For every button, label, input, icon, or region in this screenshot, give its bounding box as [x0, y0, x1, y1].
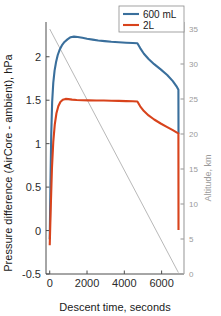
y-axis-title: Pressure difference (AirCore - ambient),…	[2, 53, 14, 271]
legend-box[interactable]: 600 mL2L	[119, 6, 184, 32]
x-tick-label: 4000	[112, 277, 136, 289]
y-tick-label: 0.5	[26, 181, 41, 193]
y2-tick-label: 35	[189, 25, 198, 34]
y2-tick-label: 5	[189, 235, 194, 244]
legend-label[interactable]: 600 mL	[143, 9, 177, 20]
legend-label[interactable]: 2L	[143, 20, 155, 31]
y2-tick-label: 30	[189, 60, 198, 69]
y2-axis-title: Altitude, km	[203, 154, 213, 201]
y2-tick-label: 20	[189, 130, 198, 139]
y2-tick-label: 10	[189, 200, 198, 209]
y2-tick-label: 15	[189, 165, 198, 174]
x-tick-label: 2000	[75, 277, 99, 289]
y-tick-label: -0.5	[22, 268, 41, 280]
y-tick-label: 1.5	[26, 94, 41, 106]
y-tick-label: 0	[35, 225, 41, 237]
pressure-difference-chart: 0200040006000 -0.500.511.52 051015202530…	[0, 0, 221, 316]
figure-container: 0200040006000 -0.500.511.52 051015202530…	[0, 0, 221, 316]
y2-tick-label: 25	[189, 95, 198, 104]
x-tick-label: 6000	[149, 277, 173, 289]
x-tick-label: 0	[47, 277, 53, 289]
y-tick-label: 1	[35, 138, 41, 150]
x-axis-title: Descent time, seconds	[59, 301, 171, 313]
y2-tick-label: 0	[189, 270, 194, 279]
y-tick-label: 2	[35, 51, 41, 63]
